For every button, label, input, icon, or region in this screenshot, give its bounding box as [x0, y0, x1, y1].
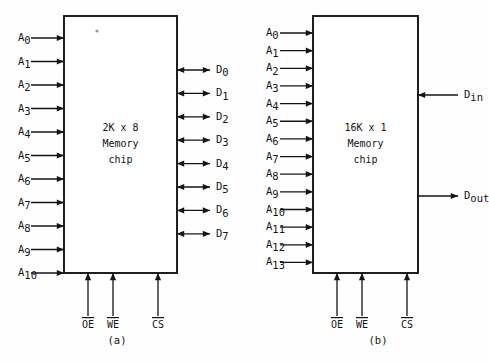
data-pin-group-a — [177, 67, 210, 237]
data-pin-arrowhead-in — [177, 184, 184, 190]
data-pin-arrowhead-in — [177, 207, 184, 213]
address-pin-label: A10 — [266, 203, 285, 218]
address-pin-group-a — [31, 35, 64, 276]
address-pin-arrowhead — [306, 118, 313, 124]
data-pin-arrowhead-out — [203, 161, 210, 167]
address-pin-label: A6 — [18, 172, 31, 187]
data-pin-arrowhead-in — [177, 161, 184, 167]
control-pin-arrowhead — [155, 273, 161, 280]
address-pin-label: A10 — [18, 266, 37, 281]
address-label-group-b: A0A1A2A3A4A5A6A7A8A9A10A11A12A13 — [266, 26, 285, 271]
address-pin-label: A13 — [266, 255, 285, 270]
data-pin-label: D0 — [216, 63, 229, 78]
address-pin-arrowhead — [306, 259, 313, 265]
chip-label-line: Memory — [102, 138, 138, 149]
address-pin-arrowhead — [306, 224, 313, 230]
control-pin-arrowhead — [110, 273, 116, 280]
address-pin-arrowhead — [57, 199, 64, 205]
data-out-arrowhead — [451, 193, 458, 199]
address-pin-arrowhead — [306, 171, 313, 177]
data-pin-label: D3 — [216, 133, 229, 148]
address-pin-arrowhead — [306, 206, 313, 212]
address-pin-label: A8 — [18, 219, 31, 234]
control-pin-label: OE — [331, 319, 343, 330]
data-pin-label: D4 — [216, 157, 229, 172]
data-pin-label: D7 — [216, 227, 229, 242]
address-pin-arrowhead — [57, 35, 64, 41]
control-pin-label: WE — [107, 319, 119, 330]
data-label-group-b: DinDout — [464, 88, 489, 204]
data-pin-arrowhead-out — [203, 114, 210, 120]
address-pin-label: A4 — [266, 97, 279, 112]
address-pin-arrowhead — [57, 176, 64, 182]
address-pin-label: A2 — [18, 78, 31, 93]
address-pin-label: A1 — [18, 55, 31, 70]
data-pin-label: Din — [464, 88, 483, 103]
control-pin-arrowhead — [334, 273, 340, 280]
control-label-group-a: OEWECS — [82, 318, 164, 330]
address-pin-arrowhead — [306, 136, 313, 142]
address-pin-label: A11 — [266, 220, 285, 235]
control-pin-arrowhead — [404, 273, 410, 280]
address-pin-label: A7 — [266, 150, 279, 165]
data-pin-label: D6 — [216, 203, 229, 218]
data-pin-arrowhead-in — [177, 67, 184, 73]
control-label-group-b: OEWECS — [331, 318, 413, 330]
address-pin-arrowhead — [57, 58, 64, 64]
address-pin-arrowhead — [306, 242, 313, 248]
data-pin-arrowhead-out — [203, 137, 210, 143]
caption-a: (a) — [108, 334, 127, 346]
data-pin-arrowhead-in — [177, 137, 184, 143]
diagram-a: A0A1A2A3A4A5A6A7A8A9A10 D0D1D2D3D4D5D6D7… — [18, 16, 229, 346]
data-pin-arrowhead-out — [203, 67, 210, 73]
chip-label-line: 2K x 8 — [102, 122, 138, 133]
address-pin-arrowhead — [57, 105, 64, 111]
address-pin-label: A4 — [18, 125, 31, 140]
data-in-arrowhead — [418, 92, 425, 98]
data-pin-group-b — [418, 92, 458, 199]
address-pin-arrowhead — [306, 101, 313, 107]
address-pin-label: A2 — [266, 61, 279, 76]
diagram-b: A0A1A2A3A4A5A6A7A8A9A10A11A12A13 DinDout… — [266, 16, 489, 346]
chip-label-line: Memory — [347, 138, 383, 149]
address-pin-label: A3 — [18, 102, 31, 117]
data-pin-arrowhead-in — [177, 114, 184, 120]
address-pin-arrowhead — [57, 129, 64, 135]
address-pin-label: A7 — [18, 196, 31, 211]
address-pin-arrowhead — [306, 30, 313, 36]
address-pin-label: A8 — [266, 167, 279, 182]
data-pin-label: D5 — [216, 180, 229, 195]
address-pin-arrowhead — [306, 153, 313, 159]
address-pin-arrowhead — [57, 223, 64, 229]
caption-b: (b) — [369, 334, 388, 346]
control-pin-group-a — [85, 273, 161, 316]
address-pin-arrowhead — [57, 152, 64, 158]
control-pin-label: CS — [152, 319, 164, 330]
chip-label-line: chip — [353, 154, 377, 165]
address-pin-label: A1 — [266, 44, 279, 59]
control-pin-label: WE — [356, 319, 368, 330]
control-pin-arrowhead — [359, 273, 365, 280]
address-pin-label: A9 — [18, 243, 31, 258]
control-pin-label: CS — [401, 319, 413, 330]
address-pin-arrowhead — [57, 82, 64, 88]
data-label-group-a: D0D1D2D3D4D5D6D7 — [216, 63, 229, 242]
data-pin-arrowhead-out — [203, 184, 210, 190]
address-pin-arrowhead — [306, 83, 313, 89]
figure-canvas: A0A1A2A3A4A5A6A7A8A9A10 D0D1D2D3D4D5D6D7… — [0, 0, 489, 363]
data-pin-label: D2 — [216, 110, 229, 125]
address-pin-arrowhead — [306, 48, 313, 54]
address-pin-arrowhead — [306, 65, 313, 71]
address-pin-label: A6 — [266, 132, 279, 147]
address-pin-label: A9 — [266, 185, 279, 200]
address-pin-label: A5 — [18, 149, 31, 164]
address-pin-label: A5 — [266, 114, 279, 129]
scan-speck — [95, 29, 98, 32]
address-pin-label: A0 — [18, 31, 31, 46]
data-pin-arrowhead-in — [177, 231, 184, 237]
address-pin-arrowhead — [306, 189, 313, 195]
address-pin-label: A0 — [266, 26, 279, 41]
control-pin-group-b — [334, 273, 410, 316]
control-pin-label: OE — [82, 319, 94, 330]
chip-label-line: chip — [108, 154, 132, 165]
